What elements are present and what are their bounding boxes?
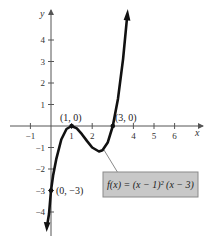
graph-canvas: −1 1 2 4 5 6 4 3 2 1 −1 −2 −3 −4 x y (1,… [0,0,211,239]
curve-arrow-down-icon [44,222,51,232]
point-label-1-0: (1, 0) [60,112,82,124]
callout-leader [104,150,118,173]
point-marker [111,124,116,129]
point-label-3-0: (3, 0) [115,112,137,124]
x-axis-label: x [194,127,200,138]
x-tick-label: 5 [152,131,157,141]
point-marker [69,124,74,129]
y-tick-label: 2 [41,78,46,88]
y-tick-label: 3 [41,57,46,67]
point-label-0-neg3: (0, −3) [56,185,83,197]
x-tick-label: 2 [90,131,95,141]
y-tick-label: −3 [35,186,45,196]
curve-arrow-up-icon [124,9,131,21]
x-tick-label: 4 [131,131,136,141]
y-tick-label: 4 [41,35,46,45]
function-callout-text: f(x) = (x − 1)² (x − 3) [107,179,194,191]
y-tick-label: −1 [35,143,45,153]
y-axis-label: y [39,8,45,19]
y-tick-label: −4 [35,207,45,217]
x-tick-label: −1 [26,131,36,141]
x-tick-label: 6 [172,131,177,141]
y-tick-label: 1 [41,100,46,110]
x-tick-label: 1 [69,131,74,141]
y-tick-label: −2 [35,164,45,174]
point-marker [49,188,54,193]
